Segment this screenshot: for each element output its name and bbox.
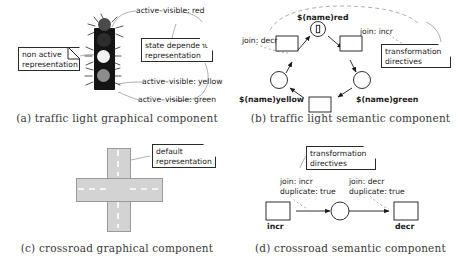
join-incr-label: join: incr: [360, 27, 393, 37]
transition-incr-label: incr: [267, 222, 284, 232]
lamp-red-inner: [97, 33, 111, 47]
caption-panel-a: (a) traffic light graphical component: [0, 112, 234, 124]
state-dependent-note: state dependent representation: [141, 38, 213, 62]
place-yellow-circle: [271, 72, 288, 89]
place-red-label: $(name)red: [297, 13, 349, 23]
transition-left-rect: [276, 36, 298, 51]
non-active-note-line-2: representation: [22, 60, 76, 70]
place-middle-circle: [331, 202, 349, 220]
active-visible-green-label: active–visible: green: [138, 95, 216, 105]
place-red-circle: [311, 22, 326, 37]
default-representation-note: default representation: [152, 144, 216, 168]
panel-traffic-light-graphical: non active representation state dependen…: [0, 0, 234, 130]
state-dependent-note-line-2: representation: [145, 51, 209, 61]
panel-traffic-light-semantic: $(name)red $(name)yellow $(name)green jo…: [234, 0, 467, 130]
non-active-note: non active representation: [18, 47, 80, 71]
join-decr-label: join: decr: [242, 36, 277, 46]
caption-panel-c: (c) crossroad graphical component: [0, 242, 234, 254]
place-green-label: $(name)green: [356, 95, 418, 105]
place-yellow-label: $(name)yellow: [239, 95, 304, 105]
transformation-note-b-line-1: transformation: [385, 47, 447, 57]
active-visible-red-label: active–visible: red: [136, 6, 205, 16]
figure-root: non active representation state dependen…: [0, 0, 467, 261]
transformation-note-b-line-2: directives: [385, 57, 447, 67]
panel-crossroad-graphical: default representation (c) crossroad gra…: [0, 130, 234, 261]
note-fold-icon: [204, 144, 216, 156]
active-visible-yellow-label: active–visible: yellow: [142, 77, 222, 87]
lamp-green: [97, 69, 110, 82]
transformation-directives-note-b: transformation directives: [381, 44, 451, 68]
transition-bottom-rect: [309, 97, 331, 112]
transition-right-rect: [340, 36, 362, 51]
transition-decr-label: decr: [395, 222, 414, 232]
lamp-red: [98, 18, 111, 31]
note-fold-icon: [201, 38, 213, 50]
note-fold-lines: [68, 47, 80, 59]
note-fold-icon: [439, 44, 451, 56]
default-note-line-2: representation: [156, 157, 212, 167]
lamp-yellow: [97, 50, 110, 63]
panel-crossroad-semantic: transformation directives join: incr dup…: [234, 130, 467, 261]
state-dependent-note-line-1: state dependent: [145, 41, 209, 51]
caption-panel-b: (b) traffic light semantic component: [234, 112, 467, 124]
caption-panel-d: (d) crossroad semantic component: [234, 242, 467, 254]
place-green-circle: [354, 72, 371, 89]
transition-incr-rect: [266, 202, 290, 220]
transition-decr-rect: [394, 202, 418, 220]
